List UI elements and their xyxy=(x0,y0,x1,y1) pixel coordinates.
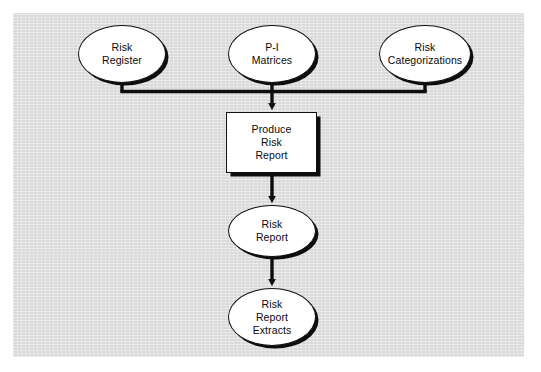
node-pi-matrices[interactable]: P-IMatrices xyxy=(228,25,316,83)
diagram-canvas: RiskRegister P-IMatrices RiskCategorizat… xyxy=(0,0,541,372)
node-risk-categorizations-label: RiskCategorizations xyxy=(388,41,462,67)
node-risk-register[interactable]: RiskRegister xyxy=(78,25,166,83)
node-risk-report[interactable]: RiskReport xyxy=(228,205,316,257)
node-risk-report-extracts-label: RiskReportExtracts xyxy=(253,298,292,337)
node-risk-report-label: RiskReport xyxy=(256,218,288,244)
node-produce-risk-report-label: ProduceRiskReport xyxy=(252,123,292,162)
node-risk-report-extracts[interactable]: RiskReportExtracts xyxy=(228,288,316,346)
node-produce-risk-report[interactable]: ProduceRiskReport xyxy=(226,112,317,173)
node-risk-categorizations[interactable]: RiskCategorizations xyxy=(379,25,471,83)
node-risk-register-label: RiskRegister xyxy=(102,41,142,67)
node-pi-matrices-label: P-IMatrices xyxy=(252,41,292,67)
